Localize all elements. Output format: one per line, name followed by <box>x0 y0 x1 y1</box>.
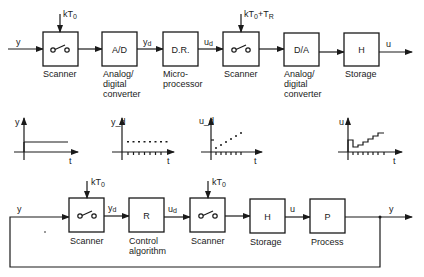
svg-text:P: P <box>324 212 330 222</box>
svg-text:digital: digital <box>284 79 308 89</box>
svg-text:D/A: D/A <box>294 45 309 55</box>
scanner-block-1: kT0 Scanner <box>43 9 78 79</box>
signal-yd-label: yd <box>143 37 152 47</box>
scanner-block-b2: kT0 Scanner <box>190 177 226 246</box>
process-block: P Process <box>310 199 345 247</box>
svg-text:digital: digital <box>103 79 127 89</box>
svg-text:Storage: Storage <box>250 237 282 247</box>
clock-label: kT0+TR <box>244 9 274 20</box>
svg-text:u_d: u_d <box>199 116 214 126</box>
chart-yd-sampled: y_d t <box>111 117 174 166</box>
signal-ud-label: ud <box>168 204 177 214</box>
da-converter-block: D/A Analog/ digital converter <box>284 33 322 99</box>
svg-text:y_d: y_d <box>111 117 126 127</box>
svg-text:algorithm: algorithm <box>129 246 166 256</box>
svg-text:Process: Process <box>311 237 344 247</box>
svg-text:u: u <box>339 117 344 127</box>
chart-y-continuous: y t <box>14 117 78 166</box>
microprocessor-block: D.R. Micro- processor <box>163 32 203 89</box>
svg-text:Scanner: Scanner <box>70 236 104 246</box>
svg-text:D.R.: D.R. <box>172 45 190 55</box>
svg-text:t: t <box>167 156 170 166</box>
svg-text:Analog/: Analog/ <box>284 69 315 79</box>
svg-text:processor: processor <box>163 79 203 89</box>
scanner-block-2: kT0+TR Scanner <box>223 9 274 79</box>
svg-text:Control: Control <box>129 236 158 246</box>
svg-text:Scanner: Scanner <box>191 236 225 246</box>
svg-text:y: y <box>17 204 22 214</box>
svg-text:t: t <box>69 156 72 166</box>
svg-text:t: t <box>393 156 396 166</box>
clock-label: kT0 <box>63 9 77 20</box>
chart-ud-discrete: u_d t <box>199 116 262 166</box>
svg-text:Analog/: Analog/ <box>103 69 134 79</box>
svg-text:Scanner: Scanner <box>224 69 258 79</box>
svg-text:converter: converter <box>284 89 322 99</box>
signal-u-label: u <box>290 204 295 214</box>
signal-ud-label: ud <box>204 37 213 47</box>
clock-label: kT0 <box>91 177 105 188</box>
signal-y-out-label: y <box>389 204 394 214</box>
storage-block-b: H Storage <box>250 199 285 247</box>
bottom-row: y kT0 Scanner yd R Control algorithm ud <box>10 177 412 267</box>
svg-text:Micro-: Micro- <box>163 69 188 79</box>
storage-block: H Storage <box>344 33 379 79</box>
svg-text:converter: converter <box>103 89 141 99</box>
svg-text:y: y <box>15 117 20 127</box>
svg-text:R: R <box>143 211 150 221</box>
svg-text:H: H <box>358 45 365 55</box>
ad-converter-block: A/D Analog/ digital converter <box>102 32 141 99</box>
sampled-control-diagram: y kT0 Scanner A/D Analog/ digital conver… <box>0 0 424 277</box>
clock-label: kT0 <box>212 177 226 188</box>
chart-u-staircase: u t <box>338 117 402 166</box>
block-label: Scanner <box>43 69 77 79</box>
signal-u-label: u <box>386 39 391 49</box>
svg-text:A/D: A/D <box>112 45 128 55</box>
svg-text:H: H <box>264 212 271 222</box>
top-row: y kT0 Scanner A/D Analog/ digital conver… <box>8 9 412 99</box>
control-algorithm-block: R Control algorithm <box>129 198 166 256</box>
svg-text:t: t <box>254 156 257 166</box>
scanner-block-b1: kT0 Scanner <box>69 177 105 246</box>
signal-y-label: y <box>16 37 21 47</box>
svg-text:Storage: Storage <box>345 69 377 79</box>
signal-yd-label: yd <box>108 203 117 213</box>
